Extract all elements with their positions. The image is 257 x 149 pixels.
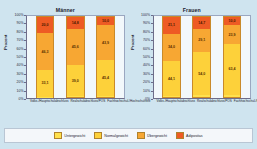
legend-label: Adipositas: [186, 134, 203, 138]
bar-group-right: 21,134,044,114,729,154,010,023,963,4: [154, 16, 251, 98]
x-axis-category-label: Realschulabschluss/POS: [196, 100, 233, 116]
bar-segment-adipositas: 14,7: [193, 17, 210, 29]
bar-slot: 10,023,963,4: [217, 16, 247, 98]
legend-label: Untergewicht: [64, 134, 85, 138]
legend-swatch-icon: [94, 132, 102, 139]
y-tick-label: 20%: [16, 80, 23, 84]
y-tick-label: 0%: [18, 97, 23, 101]
chart-panel-maenner: Männer Prozent 100%90%80%70%60%50%40%30%…: [4, 6, 127, 125]
stacked-bar[interactable]: 20,046,333,1: [36, 16, 55, 98]
legend-item[interactable]: Übergewicht: [137, 132, 167, 139]
y-tick-label: 70%: [143, 38, 150, 42]
y-tick-label: 80%: [143, 30, 150, 34]
y-tick-label: 60%: [143, 47, 150, 51]
bar-segment-adipositas: 10,0: [97, 17, 114, 25]
bar-segment-adipositas: 20,0: [37, 17, 54, 33]
bar-segment-adipositas: 14,8: [67, 17, 84, 29]
bar-segment-adipositas: 10,0: [224, 17, 241, 25]
stacked-bar[interactable]: 10,023,963,4: [223, 16, 242, 98]
bar-segment-übergewicht: 23,9: [224, 25, 241, 44]
bar-segment-untergewicht: [193, 95, 210, 97]
stacked-bar[interactable]: 10,043,945,4: [96, 16, 115, 98]
x-axis-labels-left: Volks-/HauptschulabschlussRealschulabsch…: [26, 100, 125, 116]
y-tick-label: 50%: [16, 55, 23, 59]
y-tick-label: 90%: [16, 21, 23, 25]
bar-segment-untergewicht: [163, 96, 180, 97]
y-tick-label: 50%: [143, 55, 150, 59]
stacked-bar[interactable]: 14,845,639,0: [66, 16, 85, 98]
x-axis-labels-right: Volks-/HauptschulabschlussRealschulabsch…: [153, 100, 252, 116]
legend-item[interactable]: Adipositas: [176, 132, 203, 139]
chart-panels: Männer Prozent 100%90%80%70%60%50%40%30%…: [4, 6, 253, 125]
y-tick-label: 30%: [16, 72, 23, 76]
legend-swatch-icon: [137, 132, 145, 139]
bar-group-left: 20,046,333,114,845,639,010,043,945,4: [27, 16, 124, 98]
bar-segment-normalgewicht: 54,0: [193, 52, 210, 95]
y-tick-label: 30%: [143, 72, 150, 76]
legend-item[interactable]: Untergewicht: [54, 132, 85, 139]
bar-segment-übergewicht: 45,6: [67, 29, 84, 65]
bar-segment-übergewicht: 43,9: [97, 25, 114, 60]
legend-swatch-icon: [54, 132, 62, 139]
legend-label: Übergewicht: [147, 134, 167, 138]
stacked-bar[interactable]: 14,729,154,0: [192, 16, 211, 98]
bar-segment-untergewicht: [97, 96, 114, 97]
bar-segment-normalgewicht: 63,4: [224, 44, 241, 95]
bar-slot: 10,043,945,4: [90, 16, 120, 98]
y-tick-label: 40%: [16, 63, 23, 67]
x-axis-category-label: Realschulabschluss/POS: [70, 100, 107, 116]
y-tick-label: 10%: [16, 89, 23, 93]
y-tick-label: 100%: [141, 13, 150, 17]
x-axis-category-label: Volks-/Hauptschulabschluss: [156, 100, 197, 116]
y-tick-label: 90%: [143, 21, 150, 25]
plot-area-right: 21,134,044,114,729,154,010,023,963,4: [153, 15, 252, 99]
legend-swatch-icon: [176, 132, 184, 139]
chart-figure: Männer Prozent 100%90%80%70%60%50%40%30%…: [0, 0, 257, 149]
legend-label: Normalgewicht: [104, 134, 128, 138]
y-tick-label: 100%: [15, 13, 24, 17]
plot-area-left: 20,046,333,114,845,639,010,043,945,4: [26, 15, 125, 99]
bar-slot: 14,845,639,0: [60, 16, 90, 98]
legend-item[interactable]: Normalgewicht: [94, 132, 128, 139]
bar-segment-normalgewicht: 33,1: [37, 70, 54, 96]
bar-segment-adipositas: 21,1: [163, 17, 180, 34]
bar-segment-normalgewicht: 39,0: [67, 65, 84, 96]
y-tick-label: 60%: [16, 47, 23, 51]
bar-segment-übergewicht: 46,3: [37, 33, 54, 70]
bar-slot: 21,134,044,1: [157, 16, 187, 98]
y-tick-label: 40%: [143, 63, 150, 67]
y-tick-label: 80%: [16, 30, 23, 34]
bar-segment-normalgewicht: 44,1: [163, 61, 180, 96]
stacked-bar[interactable]: 21,134,044,1: [162, 16, 181, 98]
bar-segment-untergewicht: [224, 95, 241, 97]
bar-slot: 20,046,333,1: [30, 16, 60, 98]
chart-panel-frauen: Frauen Prozent 100%90%80%70%60%50%40%30%…: [131, 6, 254, 125]
y-axis-left: 100%90%80%70%60%50%40%30%20%10%0%: [4, 15, 26, 99]
bar-segment-übergewicht: 29,1: [193, 29, 210, 52]
chart-legend: UntergewichtNormalgewichtÜbergewichtAdip…: [4, 128, 253, 143]
y-tick-label: 10%: [143, 89, 150, 93]
y-tick-label: 70%: [16, 38, 23, 42]
y-tick-label: 20%: [143, 80, 150, 84]
bar-segment-normalgewicht: 45,4: [97, 60, 114, 96]
x-axis-category-label: Fachhochschul-/Hochschulreife: [233, 100, 257, 116]
y-axis-right: 100%90%80%70%60%50%40%30%20%10%0%: [131, 15, 153, 99]
y-tick-label: 0%: [145, 97, 150, 101]
x-axis-category-label: Volks-/Hauptschulabschluss: [29, 100, 70, 116]
bar-slot: 14,729,154,0: [187, 16, 217, 98]
bar-segment-übergewicht: 34,0: [163, 34, 180, 61]
